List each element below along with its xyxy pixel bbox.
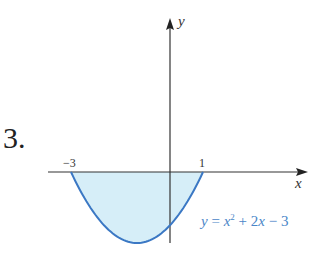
y-axis-label: y: [176, 13, 185, 29]
equation-label: y = x2 + 2x − 3: [199, 212, 288, 229]
x-axis-label: x: [294, 175, 302, 191]
graph-figure: 3. −3 1 x y y = x2 + 2x − 3: [0, 0, 328, 275]
tick-label-1: 1: [199, 156, 205, 170]
tick-label-neg3: −3: [63, 156, 76, 170]
problem-number: 3.: [3, 121, 26, 154]
